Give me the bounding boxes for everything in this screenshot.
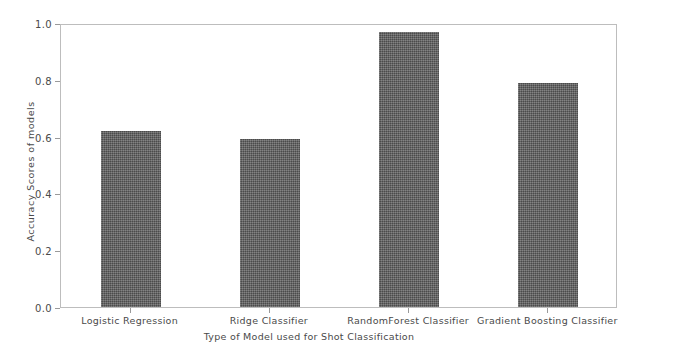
y-tick-label: 1.0 <box>35 19 52 30</box>
bar-chart-figure: Accuracy Scores of models 0.00.20.40.60.… <box>0 0 676 359</box>
x-tick-label: Ridge Classifier <box>230 315 308 326</box>
bar <box>101 131 161 307</box>
y-axis-label: Accuracy Scores of models <box>25 62 36 282</box>
x-tick-mark <box>269 308 270 313</box>
x-tick-mark <box>408 308 409 313</box>
x-axis-label-text: Type of Model used for Shot Classificati… <box>204 331 415 342</box>
bar <box>379 32 439 307</box>
y-tick-label: 0.4 <box>35 189 52 200</box>
x-tick-label: Gradient Boosting Classifier <box>477 315 618 326</box>
plot-area <box>60 24 617 308</box>
x-tick-label: RandomForest Classifier <box>347 315 469 326</box>
bar <box>518 83 578 307</box>
y-tick-label: 0.2 <box>35 246 52 257</box>
x-tick-mark <box>547 308 548 313</box>
bars-layer <box>61 25 616 307</box>
y-tick-label: 0.0 <box>35 303 52 314</box>
y-tick-label: 0.8 <box>35 75 52 86</box>
x-tick-label: Logistic Regression <box>81 315 178 326</box>
y-tick-mark <box>55 308 60 309</box>
x-axis-label: Type of Model used for Shot Classificati… <box>0 331 676 342</box>
y-tick-label: 0.6 <box>35 132 52 143</box>
x-tick-mark <box>130 308 131 313</box>
bar <box>240 139 300 307</box>
